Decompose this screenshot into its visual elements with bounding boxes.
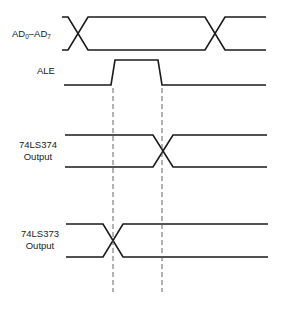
ad-bus-waveform (62, 17, 266, 50)
ad-label-main: AD (12, 28, 25, 39)
ad-label-sep: –AD (29, 28, 47, 39)
ls373-label: 74LS373 Output (19, 228, 61, 252)
ls373-output-waveform (66, 224, 268, 257)
ad-label-sub1: 7 (47, 33, 51, 40)
ls373-label-line1: 74LS373 (19, 228, 61, 240)
ale-label: ALE (37, 65, 55, 77)
ls374-label-line1: 74LS374 (17, 139, 59, 151)
ad-bus-label: AD0–AD7 (12, 28, 51, 43)
ls373-label-line2: Output (19, 240, 61, 252)
ls374-label: 74LS374 Output (17, 139, 59, 163)
ale-label-text: ALE (37, 65, 55, 76)
ls374-label-line2: Output (17, 151, 59, 163)
ale-waveform (64, 60, 266, 85)
ls374-output-waveform (65, 135, 267, 167)
